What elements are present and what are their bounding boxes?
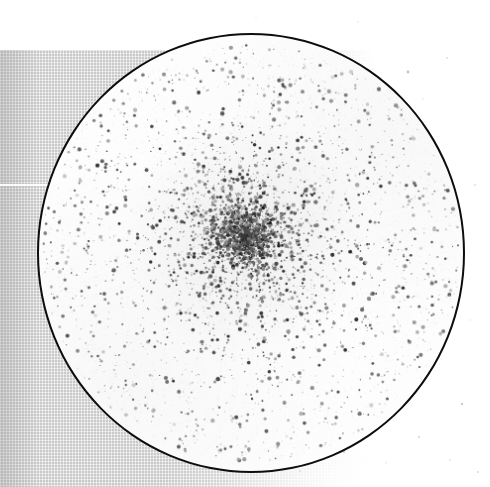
plate-scan-image: Globular star cluster imaged within a ci… xyxy=(0,0,490,487)
scan-left-edge-shade xyxy=(0,50,40,487)
starfield-canvas xyxy=(39,35,463,471)
circular-field-aperture xyxy=(37,33,465,473)
